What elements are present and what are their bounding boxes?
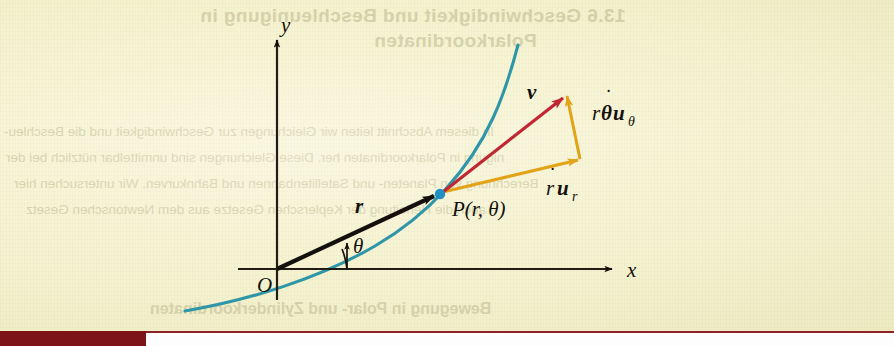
point-p-marker <box>435 189 445 199</box>
radial-label-r: r <box>546 176 555 200</box>
polar-velocity-diagram: x y O r θ P(r, θ) v ˙ r u r ˙ <box>0 0 894 332</box>
radial-label-unit: u <box>557 176 569 200</box>
transverse-component-label: ˙ r θ u θ <box>592 86 635 129</box>
theta-angle-label: θ <box>353 234 363 258</box>
position-vector-label: r <box>355 194 364 218</box>
bottom-rule-line <box>146 331 894 333</box>
figure-page: 13.6 Geschwindigkeit und Beschleunigung … <box>0 0 894 346</box>
transverse-label-subscript: θ <box>628 114 635 129</box>
transverse-label-theta: θ <box>601 101 612 125</box>
transverse-label-unit: u <box>613 101 625 125</box>
radial-component-label: ˙ r u r <box>546 164 578 204</box>
point-p-label: P(r, θ) <box>451 197 505 221</box>
transverse-component-vector <box>567 96 580 159</box>
origin-label: O <box>257 273 272 297</box>
y-axis-label: y <box>279 13 291 37</box>
transverse-label-r: r <box>592 101 601 125</box>
radial-label-subscript: r <box>572 189 578 204</box>
x-axis-label: x <box>626 258 637 282</box>
particle-path-curve <box>185 45 518 311</box>
bottom-red-tab <box>0 331 146 346</box>
velocity-vector-label: v <box>527 80 537 104</box>
